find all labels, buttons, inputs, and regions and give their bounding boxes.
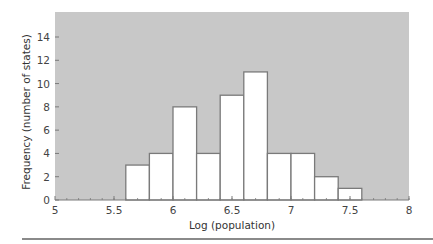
x-tick-label: 8 — [406, 204, 413, 216]
histogram-bar — [173, 107, 197, 200]
histogram-bar — [244, 72, 268, 200]
y-tick-label: 4 — [43, 147, 50, 159]
histogram-bar — [197, 153, 221, 200]
histogram-chart: 55.566.577.58 02468101214 Log (populatio… — [0, 0, 433, 244]
bottom-separator-line — [22, 238, 433, 240]
y-tick-label: 8 — [43, 101, 50, 113]
y-tick-label: 2 — [43, 171, 50, 183]
histogram-bar — [149, 153, 173, 200]
histogram-bar — [126, 165, 150, 200]
y-axis-title: Frequency (number of states) — [20, 34, 32, 190]
x-tick-label: 6 — [170, 204, 177, 216]
y-tick-label: 10 — [37, 78, 50, 90]
histogram-bar — [220, 95, 244, 200]
x-tick-label: 7.5 — [342, 204, 359, 216]
x-axis-title: Log (population) — [189, 219, 275, 231]
y-tick-label: 0 — [43, 194, 50, 206]
x-tick-label: 5.5 — [106, 204, 123, 216]
x-tick-label: 7 — [288, 204, 295, 216]
y-tick-label: 14 — [37, 31, 51, 43]
x-tick-label: 5 — [52, 204, 59, 216]
histogram-bar — [315, 177, 339, 200]
x-tick-label: 6.5 — [224, 204, 241, 216]
histogram-bar — [291, 153, 315, 200]
y-tick-label: 6 — [43, 124, 50, 136]
histogram-bar — [267, 153, 291, 200]
y-tick-label: 12 — [37, 54, 50, 66]
